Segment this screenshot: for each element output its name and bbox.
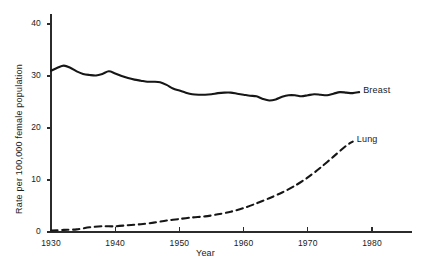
- series-line-breast: [51, 66, 359, 101]
- x-tick-label: 1950: [159, 238, 199, 248]
- series-label-lung: Lung: [357, 134, 378, 144]
- y-tick-label: 0: [9, 226, 41, 236]
- x-axis-title: Year: [196, 248, 215, 258]
- x-axis-ticks: [51, 227, 372, 232]
- x-tick-label: 1930: [31, 238, 71, 248]
- x-tick-label: 1960: [224, 238, 264, 248]
- cancer-mortality-line-chart: 010203040 193019401950196019701980 Rate …: [0, 0, 426, 271]
- series-label-breast: Breast: [363, 85, 390, 95]
- x-tick-label: 1970: [288, 238, 328, 248]
- series-line-lung: [51, 142, 353, 231]
- x-tick-label: 1980: [352, 238, 392, 248]
- y-tick-label: 40: [9, 18, 41, 28]
- x-tick-label: 1940: [95, 238, 135, 248]
- y-axis-ticks: [47, 24, 51, 232]
- y-axis-title: Rate per 100,000 female population: [14, 64, 24, 214]
